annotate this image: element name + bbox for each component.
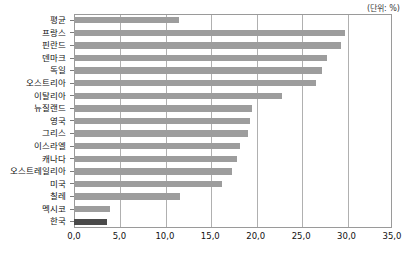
bar-row: 이탈리아 — [0, 90, 408, 103]
bar-row: 평균 — [0, 14, 408, 27]
bar-row: 독일 — [0, 64, 408, 77]
category-label: 멕시코 — [0, 205, 70, 214]
category-label: 프랑스 — [0, 29, 70, 38]
bar-track — [74, 215, 408, 228]
bar — [74, 130, 248, 136]
x-axis-tick-label: 20,0 — [246, 231, 265, 241]
category-label: 한국 — [0, 217, 70, 226]
bar-row: 미국 — [0, 178, 408, 191]
x-axis-tick-label: 5,0 — [113, 231, 127, 241]
category-label: 이탈리아 — [0, 92, 70, 101]
bar-track — [74, 77, 408, 90]
category-label: 이스라엘 — [0, 142, 70, 151]
bar-row: 그리스 — [0, 127, 408, 140]
bar — [74, 93, 282, 99]
bar — [74, 67, 322, 73]
category-label: 오스트레일리아 — [0, 167, 70, 176]
category-label: 덴마크 — [0, 54, 70, 63]
bar-track — [74, 203, 408, 216]
bar — [74, 143, 240, 149]
x-axis-tick-label: 25,0 — [292, 231, 311, 241]
x-axis-tick-label: 35,0 — [383, 231, 402, 241]
bar-track — [74, 140, 408, 153]
x-axis-tick-label: 30,0 — [337, 231, 356, 241]
x-axis-tick-label: 10,0 — [155, 231, 174, 241]
bar-row: 이스라엘 — [0, 140, 408, 153]
x-axis-tick-label: 0,0 — [67, 231, 81, 241]
bar — [74, 181, 222, 187]
category-label: 오스트리아 — [0, 79, 70, 88]
bar-track — [74, 14, 408, 27]
bar — [74, 80, 316, 86]
bar — [74, 105, 252, 111]
bar-row: 뉴질랜드 — [0, 102, 408, 115]
bar-track — [74, 90, 408, 103]
category-label: 독일 — [0, 66, 70, 75]
bar — [74, 17, 179, 23]
category-label: 영국 — [0, 117, 70, 126]
category-label: 미국 — [0, 180, 70, 189]
bar — [74, 156, 237, 162]
bar-row: 영국 — [0, 115, 408, 128]
bar — [74, 118, 250, 124]
bar-chart: (단위: %) 평균프랑스핀란드덴마크독일오스트리아이탈리아뉴질랜드영국그리스이… — [0, 0, 408, 256]
bar — [74, 55, 327, 61]
bar — [74, 193, 180, 199]
bar-rows-container: 평균프랑스핀란드덴마크독일오스트리아이탈리아뉴질랜드영국그리스이스라엘캐나다오스… — [0, 14, 408, 228]
x-axis-tick-label: 15,0 — [201, 231, 220, 241]
x-axis: 0,05,010,015,020,025,030,035,0 — [0, 229, 408, 249]
bar-track — [74, 102, 408, 115]
category-label: 뉴질랜드 — [0, 104, 70, 113]
category-label: 캐나다 — [0, 155, 70, 164]
bar-track — [74, 52, 408, 65]
bar-track — [74, 27, 408, 40]
bar-track — [74, 115, 408, 128]
bar-track — [74, 127, 408, 140]
bar-row: 멕시코 — [0, 203, 408, 216]
bar-track — [74, 152, 408, 165]
unit-note-label: (단위: %) — [367, 2, 400, 13]
bar — [74, 42, 341, 48]
bar — [74, 168, 232, 174]
bar — [74, 219, 107, 225]
bar-row: 캐나다 — [0, 152, 408, 165]
bar-row: 핀란드 — [0, 39, 408, 52]
bar-row: 프랑스 — [0, 27, 408, 40]
category-label: 핀란드 — [0, 41, 70, 50]
bar — [74, 206, 110, 212]
bar-row: 한국 — [0, 215, 408, 228]
bar-row: 덴마크 — [0, 52, 408, 65]
category-label: 평균 — [0, 16, 70, 25]
category-label: 그리스 — [0, 129, 70, 138]
category-label: 칠레 — [0, 192, 70, 201]
bar-row: 오스트리아 — [0, 77, 408, 90]
bar-track — [74, 39, 408, 52]
bar-track — [74, 64, 408, 77]
bar-row: 칠레 — [0, 190, 408, 203]
bar-track — [74, 165, 408, 178]
bar-track — [74, 178, 408, 191]
bar-row: 오스트레일리아 — [0, 165, 408, 178]
bar-track — [74, 190, 408, 203]
bar — [74, 30, 345, 36]
